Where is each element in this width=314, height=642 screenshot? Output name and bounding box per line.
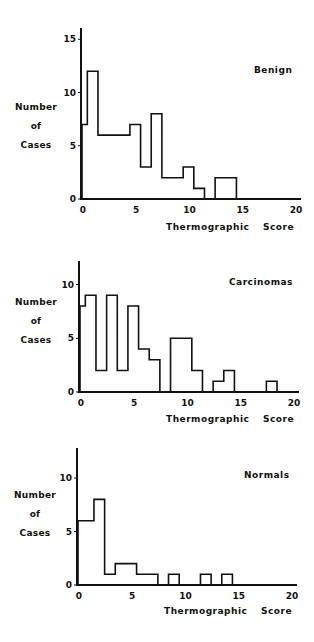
y-label-line: Cases	[5, 524, 65, 543]
normals-x-axis-label: Thermographic Score	[164, 606, 292, 616]
svg-text:0: 0	[66, 580, 72, 590]
x-tick: 10	[179, 591, 192, 601]
x-tick: 20	[286, 591, 299, 601]
svg-text:20: 20	[286, 591, 299, 601]
y-tick: 0	[66, 580, 77, 590]
x-tick: 5	[129, 591, 135, 601]
y-label-line: Number	[5, 486, 65, 505]
normals-title: Normals	[244, 470, 290, 480]
normals-y-axis-label: Number of Cases	[5, 486, 65, 543]
normals-histogram: 051005101520	[0, 0, 314, 642]
svg-text:10: 10	[179, 591, 192, 601]
x-tick: 0	[76, 591, 82, 601]
histogram-outline	[78, 499, 296, 585]
y-label-line: of	[5, 505, 65, 524]
svg-text:5: 5	[66, 527, 72, 537]
svg-text:15: 15	[232, 591, 245, 601]
y-tick: 5	[66, 527, 77, 537]
svg-text:5: 5	[129, 591, 135, 601]
x-tick: 15	[232, 591, 245, 601]
svg-text:10: 10	[59, 473, 72, 483]
svg-text:0: 0	[76, 591, 82, 601]
y-tick: 10	[59, 473, 77, 483]
